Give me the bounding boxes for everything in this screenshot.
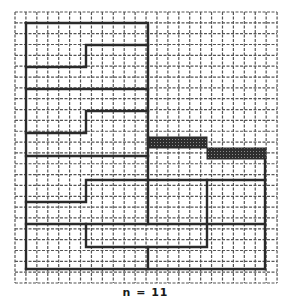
boundary-step-1 xyxy=(26,45,148,67)
shaded-bar-2 xyxy=(207,148,266,159)
boundary-step-2 xyxy=(26,111,148,133)
caption-label: n = 11 xyxy=(0,286,291,299)
shaded-bar-1 xyxy=(148,137,207,148)
shaded-bars xyxy=(148,137,266,159)
grid-figure: n = 11 xyxy=(0,0,291,308)
grid-diagram xyxy=(0,0,291,285)
